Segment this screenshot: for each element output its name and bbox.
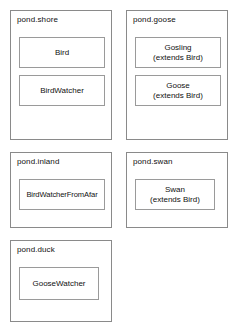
package-pond-shore[interactable]: pond.shore Bird BirdWatcher: [10, 10, 112, 140]
class-box-birdwatcher[interactable]: BirdWatcher: [19, 75, 105, 106]
class-box-gosling[interactable]: Gosling (extends Bird): [135, 37, 221, 68]
class-box-goosewatcher[interactable]: GooseWatcher: [19, 267, 99, 300]
class-stereotype: (extends Bird): [153, 91, 203, 101]
package-label: pond.goose: [133, 15, 176, 25]
package-label: pond.swan: [133, 157, 173, 167]
class-box-bird[interactable]: Bird: [19, 37, 105, 68]
class-name: Swan: [165, 185, 185, 195]
package-label: pond.inland: [17, 157, 59, 167]
class-name: BirdWatcherFromAfar: [26, 190, 97, 200]
class-name: Gosling: [164, 43, 191, 53]
package-pond-swan[interactable]: pond.swan Swan (extends Bird): [126, 152, 228, 228]
class-name: BirdWatcher: [40, 86, 84, 96]
class-stereotype: (extends Bird): [153, 53, 203, 63]
package-pond-inland[interactable]: pond.inland BirdWatcherFromAfar: [10, 152, 112, 228]
class-box-goose[interactable]: Goose (extends Bird): [135, 75, 221, 106]
uml-package-diagram: pond.shore Bird BirdWatcher pond.goose G…: [0, 0, 238, 333]
package-pond-duck[interactable]: pond.duck GooseWatcher: [10, 240, 112, 322]
class-stereotype: (extends Bird): [150, 195, 200, 205]
class-name: Bird: [55, 48, 69, 58]
class-name: GooseWatcher: [32, 279, 85, 289]
package-label: pond.duck: [17, 245, 55, 255]
package-label: pond.shore: [17, 15, 58, 25]
package-pond-goose[interactable]: pond.goose Gosling (extends Bird) Goose …: [126, 10, 228, 140]
class-box-birdwatcherfromafar[interactable]: BirdWatcherFromAfar: [19, 179, 105, 210]
class-name: Goose: [166, 81, 190, 91]
class-box-swan[interactable]: Swan (extends Bird): [135, 179, 215, 210]
